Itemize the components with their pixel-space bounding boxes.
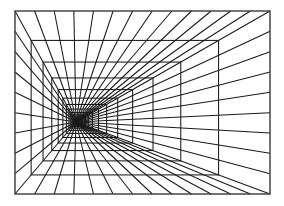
perspective-tunnel-figure <box>0 0 284 206</box>
tunnel-svg <box>0 0 284 206</box>
